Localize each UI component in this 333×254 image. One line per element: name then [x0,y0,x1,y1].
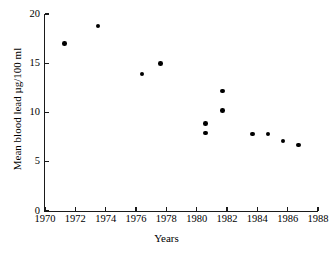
x-axis-line [44,211,318,212]
data-point [220,108,225,113]
x-axis-tick [105,207,106,211]
scatter-chart-figure: 05101520 1970197219741976197819801982198… [0,0,333,254]
x-axis-tick [317,207,318,211]
x-axis-tick [135,207,136,211]
data-point [203,121,208,126]
x-axis-tick [287,207,288,211]
x-axis-tick [257,207,258,211]
y-axis-tick [45,112,49,113]
data-point [296,143,301,148]
x-axis-title: Years [0,232,333,244]
x-axis-tick [166,207,167,211]
y-axis-title: Mean blood lead µg/100 ml [11,19,23,199]
x-axis-tick [196,207,197,211]
y-axis-tick [45,63,49,64]
plot-area [45,14,318,211]
x-axis-tick [75,207,76,211]
data-point [158,61,163,66]
data-point [62,41,67,46]
data-point [220,89,225,94]
y-axis-tick [45,210,49,211]
y-axis-tick [45,161,49,162]
y-axis-tick-label: 20 [10,9,40,20]
x-axis-tick-label: 1988 [298,213,333,224]
y-axis-tick [45,13,49,14]
x-axis-tick [44,207,45,211]
x-axis-tick [226,207,227,211]
